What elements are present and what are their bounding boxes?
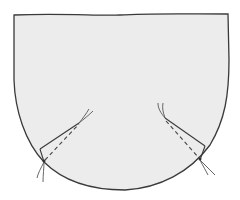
right-dart-thread-tail-bottom (200, 160, 215, 175)
pocket-diagram: pocket pattern piece with two darts (0, 0, 240, 200)
pocket-body (14, 14, 229, 190)
left-dart-knot (43, 160, 46, 163)
pocket-illustration (0, 0, 240, 200)
right-dart-knot (199, 158, 202, 161)
left-dart-thread-tail-bottom (37, 162, 44, 182)
